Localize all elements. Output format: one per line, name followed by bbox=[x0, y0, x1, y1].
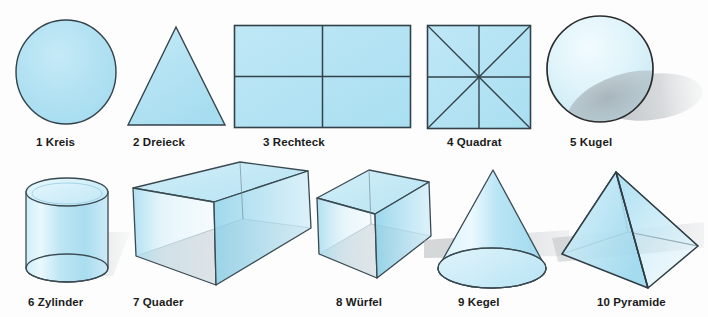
caption-cube: 8 Würfel bbox=[336, 296, 382, 308]
caption-pyramid: 10 Pyramide bbox=[597, 296, 666, 308]
shape-cone[interactable] bbox=[424, 166, 569, 296]
shape-circle[interactable] bbox=[14, 18, 118, 126]
shape-rectangle[interactable] bbox=[233, 24, 412, 130]
caption-cylinder: 6 Zylinder bbox=[28, 296, 83, 308]
caption-square: 4 Quadrat bbox=[447, 136, 502, 148]
caption-triangle: 2 Dreieck bbox=[133, 136, 185, 148]
shape-cube[interactable] bbox=[305, 166, 440, 298]
caption-cone: 9 Kegel bbox=[458, 296, 500, 308]
caption-rectangle: 3 Rechteck bbox=[263, 136, 325, 148]
shape-square[interactable] bbox=[426, 24, 532, 130]
caption-circle: 1 Kreis bbox=[36, 136, 75, 148]
caption-sphere: 5 Kugel bbox=[570, 136, 612, 148]
shape-sphere[interactable] bbox=[543, 12, 705, 132]
geometry-figure-sheet: 1 Kreis 2 Dreieck 3 bbox=[0, 0, 708, 317]
shape-pyramid[interactable] bbox=[552, 166, 704, 296]
shape-cuboid[interactable] bbox=[112, 160, 322, 300]
caption-cuboid: 7 Quader bbox=[133, 296, 184, 308]
shape-triangle[interactable] bbox=[127, 24, 227, 129]
